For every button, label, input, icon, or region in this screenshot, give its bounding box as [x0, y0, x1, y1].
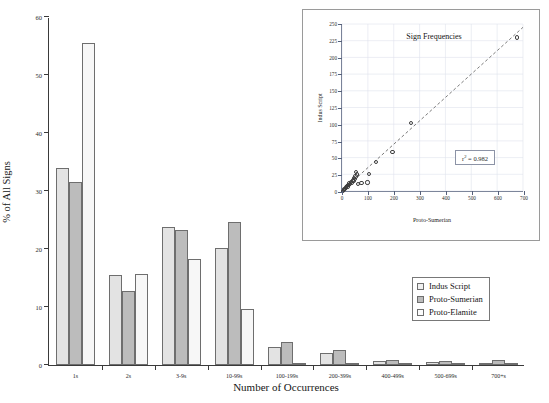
y-tick-label: 40	[36, 130, 43, 137]
y-tick-label: 20	[36, 246, 43, 253]
x-tick	[419, 365, 420, 370]
inset-y-tick	[338, 108, 342, 109]
x-tick-label: 500-699s	[434, 373, 456, 379]
legend-item: Proto-Sumerian	[417, 294, 483, 304]
bar-group	[102, 18, 155, 365]
bar-sumerian	[281, 342, 294, 365]
y-tick	[44, 248, 49, 249]
inset-y-tick	[338, 158, 342, 159]
legend-label: Indus Script	[429, 281, 470, 291]
bar-elamite	[293, 363, 306, 365]
inset-y-tick-label: 175	[329, 71, 337, 77]
inset-y-tick-label: 0	[334, 189, 337, 195]
x-tick-label: 1s	[73, 373, 78, 379]
y-axis-title: % of All Signs	[1, 161, 12, 223]
inset-y-tick-label: 50	[332, 155, 337, 161]
x-tick	[366, 365, 367, 370]
y-tick-label: 50	[36, 72, 43, 79]
figure-root: 0102030405060 1s2s3-9s10-99s100-199s200-…	[0, 0, 549, 403]
bar-elamite	[241, 309, 254, 365]
inset-x-tick-label: 500	[468, 195, 476, 201]
scatter-point	[409, 121, 413, 125]
inset-y-tick	[338, 74, 342, 75]
inset-x-tick-label: 100	[364, 195, 372, 201]
y-tick-label: 30	[36, 188, 43, 195]
inset-y-tick	[338, 175, 342, 176]
bar-elamite	[82, 43, 95, 365]
bar-sumerian	[228, 222, 241, 365]
legend-swatch-elamite	[417, 309, 424, 316]
inset-y-tick	[338, 142, 342, 143]
inset-y-tick	[338, 41, 342, 42]
bar-sumerian	[175, 230, 188, 365]
inset-y-tick	[338, 91, 342, 92]
y-tick-label: 10	[36, 304, 43, 311]
y-tick	[44, 74, 49, 75]
scatter-point	[365, 180, 369, 184]
bar-sumerian	[122, 291, 135, 365]
x-tick-label: 400-499s	[382, 373, 404, 379]
r-squared-annotation: r2 = 0.982	[455, 150, 495, 165]
inset-y-tick-label: 250	[329, 21, 337, 27]
bar-indus	[162, 227, 175, 365]
y-tick	[44, 16, 49, 17]
inset-y-tick-label: 25	[332, 172, 337, 178]
bar-sumerian	[333, 350, 346, 365]
y-tick	[44, 132, 49, 133]
y-tick	[44, 364, 49, 365]
inset-y-tick-label: 150	[329, 88, 337, 94]
x-tick-label: 2s	[126, 373, 131, 379]
x-tick-label: 200-399s	[329, 373, 351, 379]
inset-y-axis-label: Indus Script	[317, 93, 323, 122]
bar-sumerian	[386, 360, 399, 365]
legend-swatch-indus	[417, 283, 424, 290]
bar-sumerian	[69, 182, 82, 365]
x-tick	[261, 365, 262, 370]
scatter-point	[390, 150, 394, 154]
legend-item: Proto-Elamite	[417, 307, 483, 317]
bar-elamite	[188, 259, 201, 365]
inset-x-tick-label: 400	[442, 195, 450, 201]
inset-y-tick	[338, 24, 342, 25]
inset-x-axis-label: Proto-Sumerian	[413, 217, 451, 223]
scatter-point	[374, 160, 378, 164]
bar-indus	[479, 363, 492, 365]
scatter-point	[359, 181, 363, 185]
scatter-point	[515, 35, 519, 39]
x-tick	[313, 365, 314, 370]
inset-gridlines	[342, 24, 523, 191]
x-tick	[472, 365, 473, 370]
bar-indus	[320, 353, 333, 365]
r2-value: = 0.982	[466, 155, 488, 162]
inset-trendline	[342, 24, 523, 191]
bar-sumerian	[492, 360, 505, 365]
x-tick-label: 3-9s	[176, 373, 186, 379]
y-tick	[44, 190, 49, 191]
x-tick-label: 10-99s	[226, 373, 242, 379]
inset-scatter-chart: 0255075100125150175200225250 01002003004…	[302, 9, 540, 241]
scatter-point	[367, 172, 371, 176]
y-tick	[44, 306, 49, 307]
bar-elamite	[505, 363, 518, 365]
bar-indus	[56, 168, 69, 365]
x-axis-title: Number of Occurrences	[233, 381, 339, 393]
inset-y-tick-label: 100	[329, 122, 337, 128]
inset-y-tick	[338, 125, 342, 126]
inset-y-tick	[338, 58, 342, 59]
bar-sumerian	[439, 361, 452, 365]
inset-x-tick-label: 0	[341, 195, 344, 201]
bar-elamite	[135, 274, 148, 365]
x-tick	[208, 365, 209, 370]
inset-y-tick-label: 200	[329, 55, 337, 61]
x-tick	[155, 365, 156, 370]
legend-item: Indus Script	[417, 281, 483, 291]
x-tick-label: 700+s	[491, 373, 506, 379]
x-tick	[102, 365, 103, 370]
inset-plot-area: 0255075100125150175200225250 01002003004…	[341, 24, 523, 192]
legend-label: Proto-Elamite	[429, 307, 477, 317]
bar-elamite	[346, 363, 359, 365]
inset-y-tick-label: 225	[329, 38, 337, 44]
inset-x-tick-label: 300	[416, 195, 424, 201]
bar-elamite	[399, 363, 412, 365]
legend: Indus ScriptProto-SumerianProto-Elamite	[412, 277, 490, 321]
